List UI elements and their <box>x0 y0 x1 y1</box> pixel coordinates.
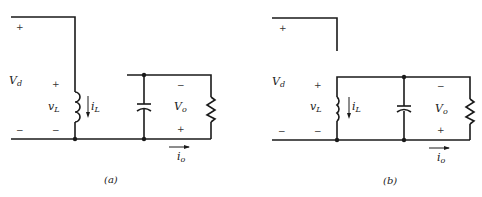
junction-dot <box>142 137 146 141</box>
wire-a-output-top <box>127 75 211 97</box>
vo-bottom-sign-a: + <box>177 124 185 135</box>
io-sub: o <box>181 155 186 164</box>
vd-plus-a: + <box>16 22 24 33</box>
arrow-io-b-icon <box>444 146 450 150</box>
panel-label-b: (b) <box>383 175 397 186</box>
vd-minus-b: − <box>278 126 286 137</box>
il-sub: L <box>356 105 361 114</box>
panel-label-a: (a) <box>104 174 118 185</box>
vo-label-b: Vo <box>435 103 448 117</box>
junction-dot <box>73 137 77 141</box>
vd-plus-b: + <box>279 23 287 34</box>
vd-sub: d <box>280 80 285 89</box>
vd-label-a: Vd <box>9 75 22 89</box>
vo-sub: o <box>443 107 448 116</box>
vo-sub: o <box>182 105 187 114</box>
vd-minus-a: − <box>16 125 24 136</box>
vl-sub: L <box>54 105 59 114</box>
vo-label-a: Vo <box>174 101 187 115</box>
vl-minus-a: − <box>52 125 60 136</box>
resistor-a-icon <box>207 97 215 122</box>
vo-bottom-sign-b: + <box>437 125 445 136</box>
vo-symbol: V <box>435 102 443 115</box>
vl-label-b: vL <box>310 101 322 115</box>
io-label-b: io <box>437 152 445 166</box>
il-sub: L <box>95 105 100 114</box>
vl-sub: L <box>316 105 321 114</box>
il-label-a: iL <box>91 101 100 115</box>
junction-dot <box>402 75 406 79</box>
vl-label-a: vL <box>48 101 60 115</box>
inductor-b-icon <box>337 97 339 121</box>
vl-plus-a: + <box>52 79 60 90</box>
io-label-a: io <box>177 151 185 165</box>
vd-symbol: V <box>9 74 17 87</box>
vo-top-sign-b: − <box>437 81 445 92</box>
resistor-b-icon <box>466 99 474 124</box>
vo-top-sign-a: − <box>177 80 185 91</box>
vo-symbol: V <box>174 100 182 113</box>
vd-sub: d <box>17 79 22 88</box>
junction-dot <box>142 73 146 77</box>
circuit-diagrams <box>0 0 482 197</box>
vd-label-b: Vd <box>272 76 285 90</box>
il-label-b: iL <box>352 101 361 115</box>
vl-plus-b: + <box>314 80 322 91</box>
vd-symbol: V <box>272 75 280 88</box>
io-sub: o <box>441 156 446 165</box>
junction-dot <box>402 138 406 142</box>
arrow-io-a-icon <box>184 145 190 149</box>
junction-dot <box>335 138 339 142</box>
inductor-a-icon <box>75 92 80 122</box>
vl-minus-b: − <box>314 126 322 137</box>
